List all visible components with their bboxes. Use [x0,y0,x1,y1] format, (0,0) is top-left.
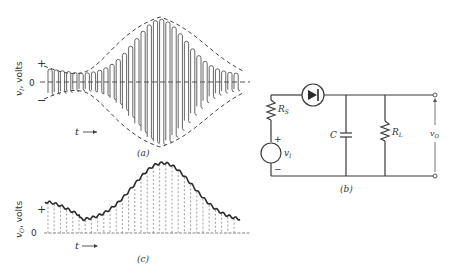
panel-c: + 0 vO, volts t (c) [14,162,250,264]
zero-label-c: 0 [31,228,37,238]
source-plus: + [274,134,282,144]
rl-label: RL [391,127,403,138]
output-waveform [45,162,240,221]
rs-label: RS [277,104,289,115]
plus-label-a: + [37,57,46,70]
output-arrow-icon [433,98,437,102]
figure-canvas: + 0 − vI, volts t (a) RS + − vI [0,0,455,277]
time-label-c: t [75,240,80,251]
sample-lines [48,164,234,233]
capacitor-c [340,95,352,176]
output-terminal-top [433,93,437,97]
time-label-a: t [75,126,80,137]
caption-b: (b) [340,184,353,194]
svg-text:vO, volts: vO, volts [14,200,25,238]
plus-label-c: + [37,203,46,216]
output-terminal-bottom [433,174,437,178]
vi-label: vI [284,148,292,159]
diode [302,84,324,106]
upper-envelope [44,17,245,74]
voltage-source-vi [261,143,281,163]
load-resistor-rl [381,95,389,176]
caption-c: (c) [137,254,150,264]
lower-envelope [44,90,245,147]
c-label: C [330,130,337,140]
minus-label-a: − [37,94,46,107]
zero-label-a: 0 [29,78,35,88]
source-resistor-rs [267,100,275,120]
y-axis-label-a: vI, volts [14,61,25,96]
panel-b-circuit: RS + − vI C RL [261,84,440,194]
caption-a: (a) [137,148,150,158]
vo-label: vO [430,129,440,139]
panel-a: + 0 − vI, volts t (a) [14,17,250,158]
y-axis-label-c: vO, volts [14,200,25,238]
source-minus: − [274,164,282,174]
svg-text:vI, volts: vI, volts [14,61,25,96]
